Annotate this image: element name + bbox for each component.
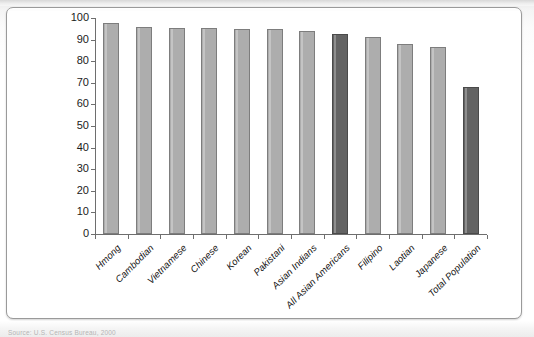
bar <box>136 27 152 234</box>
y-axis-tick-label: 20 <box>77 184 89 197</box>
x-axis-category-label: Filipino <box>355 242 385 272</box>
page-background: 1009080706050403020100 HmongCambodianVie… <box>0 0 534 337</box>
y-axis-tick-mark <box>91 191 95 192</box>
bar <box>103 23 119 234</box>
bar <box>397 44 413 234</box>
bar <box>234 29 250 234</box>
x-axis-category-label: Korean <box>224 242 254 272</box>
y-axis-tick-mark <box>91 212 95 213</box>
y-axis-tick-label: 60 <box>77 97 89 110</box>
bar-chart-plot-area: 1009080706050403020100 HmongCambodianVie… <box>95 18 487 234</box>
y-axis-tick-label: 100 <box>71 11 89 24</box>
x-axis-tick-mark <box>193 235 194 239</box>
bar <box>365 37 381 234</box>
x-axis-tick-mark <box>324 235 325 239</box>
x-axis-tick-mark <box>291 235 292 239</box>
y-axis-tick-mark <box>91 83 95 84</box>
y-axis-tick-label: 10 <box>77 205 89 218</box>
x-axis-tick-mark <box>487 235 488 239</box>
y-axis-tick-mark <box>91 104 95 105</box>
y-axis-tick-label: 0 <box>83 227 89 240</box>
bar <box>430 47 446 234</box>
x-axis-category-label: All Asian Americans <box>283 242 351 310</box>
x-axis-tick-mark <box>128 235 129 239</box>
scan-top-artifact-text <box>150 0 410 4</box>
y-axis-line <box>95 18 96 235</box>
y-axis-tick-mark <box>91 169 95 170</box>
bar <box>169 28 185 234</box>
y-axis-tick-label: 90 <box>77 33 89 46</box>
x-axis-category-label: Hmong <box>93 242 123 272</box>
x-axis-tick-mark <box>389 235 390 239</box>
x-axis-tick-mark <box>226 235 227 239</box>
bar <box>267 29 283 234</box>
y-axis-tick-mark <box>91 40 95 41</box>
x-axis-tick-mark <box>422 235 423 239</box>
y-axis-tick-mark <box>91 61 95 62</box>
y-axis-tick-label: 50 <box>77 119 89 132</box>
bar <box>332 34 348 234</box>
y-axis-tick-label: 30 <box>77 162 89 175</box>
chart-card: 1009080706050403020100 HmongCambodianVie… <box>6 7 522 319</box>
x-axis-category-label: Laotian <box>387 242 417 272</box>
x-axis-tick-mark <box>95 235 96 239</box>
source-note: Source: U.S. Census Bureau, 2000 <box>8 329 408 337</box>
y-axis-tick-mark <box>91 126 95 127</box>
y-axis-tick-label: 40 <box>77 141 89 154</box>
bar <box>299 31 315 234</box>
bar <box>201 28 217 234</box>
y-axis-tick-label: 80 <box>77 54 89 67</box>
x-axis-tick-mark <box>160 235 161 239</box>
x-axis-category-label: Chinese <box>188 242 221 275</box>
y-axis-tick-mark <box>91 148 95 149</box>
x-axis-tick-mark <box>356 235 357 239</box>
x-axis-tick-mark <box>454 235 455 239</box>
y-axis-tick-label: 70 <box>77 76 89 89</box>
x-axis-tick-mark <box>258 235 259 239</box>
y-axis-tick-mark <box>91 18 95 19</box>
bar <box>463 87 479 234</box>
